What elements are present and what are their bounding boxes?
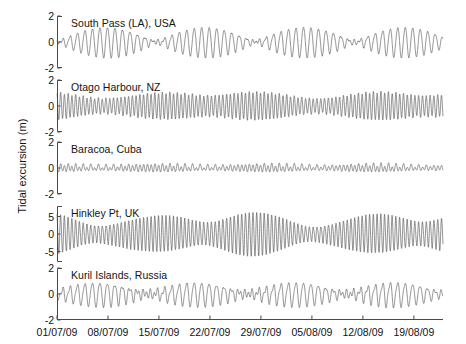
tide-trace [57, 27, 443, 58]
y-tick-label: -5 [45, 246, 54, 258]
panel-axes-and-trace [57, 268, 443, 320]
tide-trace [57, 91, 443, 120]
y-tick-label: 5 [48, 211, 54, 223]
panel-axes-and-trace [57, 16, 443, 68]
x-tick-label: 29/07/09 [240, 326, 281, 338]
panel-3: 20-2Baracoa, Cuba [57, 142, 443, 194]
y-tick-label: 2 [48, 74, 54, 86]
tide-trace [57, 212, 443, 256]
x-tick-label: 08/07/09 [88, 326, 129, 338]
y-tick-label: 0 [48, 288, 54, 300]
y-tick-label: 0 [48, 36, 54, 48]
panel-4: 50-5Hinkley Pt, UK [57, 206, 443, 262]
panel-axes-and-trace [57, 142, 443, 194]
x-tick-label: 05/08/09 [291, 326, 332, 338]
x-tick-label: 19/08/09 [393, 326, 434, 338]
tide-trace [57, 163, 443, 172]
x-axis-tick-labels: 01/07/0908/07/0915/07/0922/07/0929/07/09… [0, 326, 466, 342]
panel-axes-and-trace [57, 206, 443, 262]
panel-1: 20-2South Pass (LA), USA [57, 16, 443, 68]
y-tick-label: 2 [48, 10, 54, 22]
tidal-excursion-figure: Tidal excursion (m) 20-2South Pass (LA),… [0, 0, 466, 344]
y-tick-label: 0 [48, 162, 54, 174]
panel-5: 20-2Kuril Islands, Russia [57, 268, 443, 320]
x-tick-label: 22/07/09 [190, 326, 231, 338]
y-tick-label: -2 [45, 314, 54, 326]
y-tick-label: 0 [48, 228, 54, 240]
y-tick-label: -2 [45, 62, 54, 74]
x-tick-label: 15/07/09 [139, 326, 180, 338]
x-tick-label: 01/07/09 [37, 326, 78, 338]
y-tick-label: 2 [48, 262, 54, 274]
x-tick-label: 12/08/09 [342, 326, 383, 338]
y-axis-label: Tidal excursion (m) [16, 81, 28, 251]
panel-2: 20-2Otago Harbour, NZ [57, 80, 443, 132]
panel-axes-and-trace [57, 80, 443, 132]
y-tick-label: 2 [48, 136, 54, 148]
y-tick-label: 0 [48, 100, 54, 112]
tide-trace [57, 283, 443, 308]
y-tick-label: -2 [45, 188, 54, 200]
